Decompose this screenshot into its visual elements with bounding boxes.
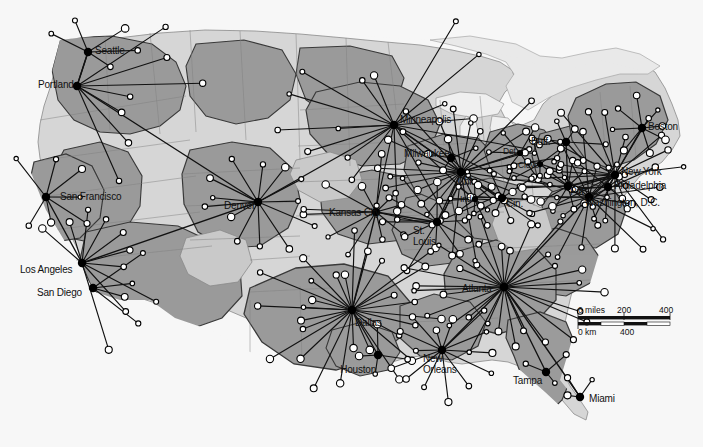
spoke-node[interactable] — [450, 106, 456, 112]
spoke-node[interactable] — [211, 196, 215, 200]
spoke-node[interactable] — [207, 175, 214, 182]
spoke-node[interactable] — [474, 181, 481, 188]
spoke-node[interactable] — [103, 217, 108, 222]
spoke-node[interactable] — [394, 217, 399, 222]
hub-node-san-diego[interactable] — [89, 284, 97, 292]
hub-node-new-orleans[interactable] — [438, 346, 446, 354]
spoke-node[interactable] — [457, 265, 463, 271]
spoke-node[interactable] — [531, 124, 538, 131]
spoke-node[interactable] — [398, 202, 405, 209]
spoke-node[interactable] — [489, 371, 494, 376]
spoke-node[interactable] — [528, 221, 535, 228]
spoke-node[interactable] — [474, 146, 478, 150]
spoke-node[interactable] — [366, 346, 374, 354]
spoke-node[interactable] — [537, 142, 543, 148]
spoke-node[interactable] — [355, 352, 363, 360]
spoke-node[interactable] — [571, 206, 577, 212]
spoke-node[interactable] — [401, 233, 407, 239]
hub-node-cleveland[interactable] — [537, 161, 543, 167]
spoke-node[interactable] — [563, 352, 569, 358]
spoke-node[interactable] — [401, 265, 407, 271]
spoke-node[interactable] — [72, 18, 77, 23]
spoke-node[interactable] — [374, 320, 381, 327]
hub-node-washington-d-c[interactable] — [585, 193, 593, 201]
spoke-node[interactable] — [562, 175, 566, 179]
spoke-node[interactable] — [527, 196, 535, 204]
hub-node-tampa[interactable] — [542, 368, 550, 376]
spoke-node[interactable] — [484, 330, 488, 334]
spoke-node[interactable] — [490, 197, 496, 203]
hub-node-minneapolis[interactable] — [390, 121, 398, 129]
spoke-node[interactable] — [478, 203, 484, 209]
spoke-node[interactable] — [681, 165, 685, 169]
spoke-node[interactable] — [445, 399, 452, 406]
spoke-node[interactable] — [495, 328, 502, 335]
hub-node-houston[interactable] — [374, 351, 382, 359]
spoke-node[interactable] — [360, 78, 365, 83]
spoke-node[interactable] — [379, 258, 384, 263]
spoke-node[interactable] — [628, 200, 635, 207]
spoke-node[interactable] — [286, 246, 293, 253]
spoke-node[interactable] — [623, 134, 629, 140]
spoke-node[interactable] — [299, 177, 304, 182]
spoke-node[interactable] — [422, 385, 427, 390]
hub-node-detroit[interactable] — [517, 150, 523, 156]
spoke-node[interactable] — [345, 155, 350, 160]
spoke-node[interactable] — [412, 288, 417, 293]
spoke-node[interactable] — [564, 392, 571, 399]
spoke-node[interactable] — [466, 383, 472, 389]
spoke-node[interactable] — [436, 118, 443, 125]
spoke-node[interactable] — [436, 198, 442, 204]
hub-node-miami[interactable] — [576, 393, 584, 401]
spoke-node[interactable] — [544, 135, 551, 142]
spoke-node[interactable] — [310, 385, 317, 392]
spoke-node[interactable] — [665, 147, 671, 153]
spoke-node[interactable] — [254, 303, 260, 309]
spoke-node[interactable] — [582, 202, 588, 208]
spoke-node[interactable] — [227, 213, 234, 220]
spoke-node[interactable] — [558, 219, 563, 224]
spoke-node[interactable] — [466, 215, 471, 220]
spoke-node[interactable] — [529, 176, 534, 181]
spoke-node[interactable] — [525, 158, 531, 164]
spoke-node[interactable] — [47, 219, 54, 226]
spoke-node[interactable] — [136, 321, 141, 326]
spoke-node[interactable] — [352, 228, 358, 234]
spoke-node[interactable] — [646, 115, 652, 121]
spoke-node[interactable] — [485, 208, 489, 212]
spoke-node[interactable] — [296, 199, 301, 204]
spoke-node[interactable] — [498, 243, 505, 250]
spoke-node[interactable] — [350, 344, 357, 351]
spoke-node[interactable] — [585, 109, 591, 115]
spoke-node[interactable] — [603, 142, 608, 147]
spoke-node[interactable] — [416, 160, 421, 165]
spoke-node[interactable] — [487, 168, 492, 173]
spoke-node[interactable] — [595, 222, 601, 228]
spoke-node[interactable] — [403, 109, 408, 114]
spoke-node[interactable] — [438, 315, 445, 322]
spoke-node[interactable] — [428, 249, 434, 255]
spoke-node[interactable] — [553, 381, 558, 386]
spoke-node[interactable] — [546, 252, 551, 257]
spoke-node[interactable] — [535, 223, 540, 228]
spoke-node[interactable] — [300, 255, 307, 262]
spoke-node[interactable] — [449, 252, 456, 259]
hub-node-cincinnati[interactable] — [498, 194, 506, 202]
spoke-node[interactable] — [257, 244, 262, 249]
spoke-node[interactable] — [444, 135, 451, 142]
spoke-node[interactable] — [555, 195, 559, 199]
spoke-node[interactable] — [449, 315, 457, 323]
spoke-node[interactable] — [121, 264, 127, 270]
spoke-node[interactable] — [84, 220, 90, 226]
spoke-node[interactable] — [108, 64, 114, 70]
spoke-node[interactable] — [492, 171, 497, 176]
spoke-node[interactable] — [640, 246, 646, 252]
spoke-node[interactable] — [615, 106, 620, 111]
spoke-node[interactable] — [477, 52, 481, 56]
spoke-node[interactable] — [656, 108, 660, 112]
hub-node-st-louis[interactable] — [433, 218, 441, 226]
spoke-node[interactable] — [523, 361, 528, 366]
spoke-node[interactable] — [537, 173, 542, 178]
spoke-node[interactable] — [646, 150, 653, 157]
spoke-node[interactable] — [620, 147, 627, 154]
